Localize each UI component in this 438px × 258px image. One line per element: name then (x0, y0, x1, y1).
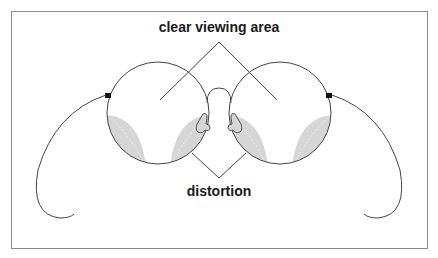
distortion-label: distortion (187, 183, 252, 199)
right-temple (332, 95, 402, 218)
left-lens-distortion-zones (108, 115, 208, 166)
clear-viewing-area-label: clear viewing area (159, 19, 280, 35)
diagram-frame (12, 12, 428, 249)
right-hinge (326, 93, 332, 98)
bridge (207, 88, 231, 103)
glasses-diagram (0, 0, 438, 258)
right-lens-distortion-zones (230, 115, 331, 166)
distortion-pointer (192, 153, 246, 178)
left-temple (36, 95, 106, 218)
clear-area-pointer (160, 42, 277, 100)
